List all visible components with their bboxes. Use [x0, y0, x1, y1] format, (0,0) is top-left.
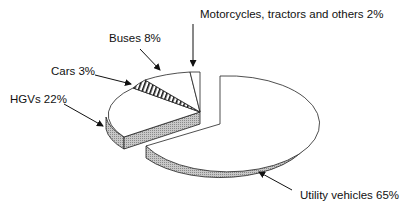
- motorcycles-label: Motorcycles, tractors and others 2%: [200, 9, 383, 21]
- utility-label: Utility vehicles 65%: [300, 190, 399, 202]
- hgvs-label: HGVs 22%: [10, 94, 67, 106]
- hgvs-arrow: [64, 104, 103, 126]
- utility-arrow: [259, 172, 292, 190]
- cars-arrow: [95, 75, 131, 84]
- buses-label: Buses 8%: [109, 33, 161, 45]
- cars-label: Cars 3%: [51, 66, 95, 78]
- buses-arrow: [140, 49, 160, 70]
- pie-chart: [0, 0, 409, 216]
